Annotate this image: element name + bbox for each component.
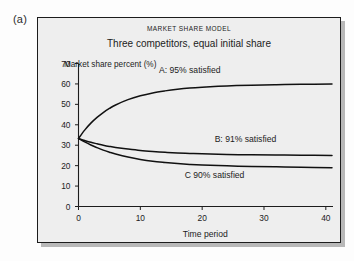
y-axis-tick-labels: 010203040506070	[61, 59, 71, 212]
svg-text:40: 40	[61, 120, 71, 130]
series-annotation: C 90% satisfied	[185, 170, 245, 180]
chart-panel: MARKET SHARE MODEL Three competitors, eq…	[37, 17, 341, 243]
series-line	[79, 138, 333, 167]
svg-text:30: 30	[61, 140, 71, 150]
series-line	[79, 138, 333, 155]
svg-text:20: 20	[61, 161, 71, 171]
svg-text:60: 60	[61, 79, 71, 89]
svg-text:70: 70	[61, 59, 71, 69]
svg-text:10: 10	[61, 181, 71, 191]
svg-text:0: 0	[76, 213, 81, 223]
x-axis-title: Time period	[183, 229, 228, 239]
svg-text:0: 0	[66, 202, 71, 212]
figure-label: (a)	[13, 13, 27, 25]
series-annotation: A: 95% satisfied	[159, 65, 221, 75]
svg-text:40: 40	[321, 213, 331, 223]
chart-plot-area: 010203040506070 010203040 A: 95% satisfi…	[38, 18, 339, 241]
series-annotation: B: 91% satisfied	[215, 134, 277, 144]
svg-text:30: 30	[259, 213, 269, 223]
svg-text:50: 50	[61, 99, 71, 109]
x-axis-tick-labels: 010203040	[76, 213, 331, 223]
svg-text:10: 10	[136, 213, 146, 223]
series-line	[79, 84, 333, 139]
svg-text:20: 20	[197, 213, 207, 223]
series-lines	[79, 84, 333, 168]
